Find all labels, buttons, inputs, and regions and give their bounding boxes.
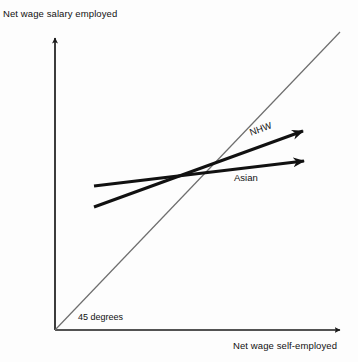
- chart-figure: Net wage salary employed Net wage self-e…: [0, 0, 358, 362]
- reference-line-label: 45 degrees: [78, 313, 123, 322]
- chart-plot-area: [0, 0, 358, 362]
- nhw-line: [94, 131, 303, 207]
- asian-line: [94, 161, 304, 186]
- y-axis-title: Net wage salary employed: [3, 9, 117, 19]
- reference-line-45-degrees: [55, 32, 340, 330]
- x-axis-title: Net wage self-employed: [233, 341, 337, 351]
- asian-line-label: Asian: [234, 173, 258, 183]
